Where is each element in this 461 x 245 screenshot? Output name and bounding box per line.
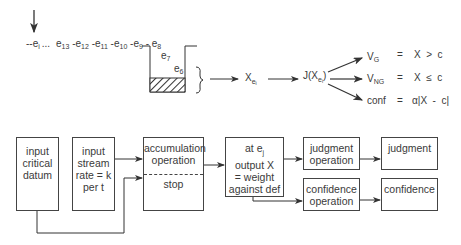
svg-text:=: = — [397, 49, 403, 60]
box-text: against def — [226, 183, 283, 195]
box-accumulation-operation: accumulation operation stop — [143, 137, 204, 211]
box-text: stop — [144, 178, 203, 190]
box-text: rate = k — [73, 169, 114, 181]
box-text: critical — [17, 157, 58, 169]
box-text: datum — [17, 169, 58, 181]
svg-text:=: = — [397, 72, 403, 83]
svg-text:VG: VG — [367, 51, 379, 63]
box-judgment: judgment — [381, 137, 438, 170]
outcome-vg: VG = X > c — [367, 49, 443, 63]
arrow-to-conf — [328, 84, 362, 100]
box-text: operation — [304, 154, 359, 166]
box-text: accumulation — [144, 142, 203, 154]
svg-text:α|X - c|: α|X - c| — [412, 95, 449, 106]
box-confidence-operation: confidence operation — [303, 178, 360, 211]
box-text: output X — [226, 159, 283, 171]
box-confidence: confidence — [381, 178, 438, 211]
accumulator-container: e7 e6 — [142, 46, 197, 92]
box-text: at e — [245, 142, 263, 154]
svg-text:conf: conf — [367, 95, 386, 106]
box-text: = weight — [226, 171, 283, 183]
svg-text:e6: e6 — [174, 63, 184, 75]
svg-text:X ≤ c: X ≤ c — [414, 72, 442, 83]
svg-text:X > c: X > c — [414, 49, 443, 60]
box-judgment-operation: judgment operation — [303, 137, 360, 170]
x-label: Xei — [245, 72, 257, 86]
accumulated-fill — [150, 78, 185, 92]
box-text: operation — [144, 154, 203, 166]
box-text: confidence — [382, 183, 437, 195]
outcome-conf: conf = α|X - c| — [367, 95, 449, 106]
stop-section: stop — [144, 175, 203, 190]
box-text: stream — [73, 157, 114, 169]
box-input-stream: input stream rate = k per t — [72, 137, 115, 211]
svg-text:=: = — [397, 95, 403, 106]
box-input-critical-datum: input critical datum — [16, 137, 59, 211]
j-label: J(Xei) — [303, 70, 326, 84]
box-text: confidence — [304, 183, 359, 195]
svg-text:VNG: VNG — [367, 73, 384, 85]
box-text: input — [17, 145, 58, 157]
box-text: j — [262, 149, 264, 156]
box-text: operation — [304, 195, 359, 207]
svg-text:e7: e7 — [161, 50, 171, 62]
brace-icon — [196, 67, 203, 93]
arrow-to-vg — [328, 58, 362, 72]
outcome-vng: VNG = X ≤ c — [367, 72, 442, 85]
box-text: judgment — [304, 142, 359, 154]
box-text: input — [73, 145, 114, 157]
svg-text:--ei...: --ei... — [26, 38, 50, 50]
box-output: at ej output X = weight against def — [225, 137, 284, 197]
svg-text:e13 -e12 -e11: e13 -e12 -e11 -e10 -e9 - e8 — [56, 38, 161, 51]
box-text: per t — [73, 181, 114, 193]
element-stream: --ei... e13 -e12 -e11 -e10 -e9 - e8 — [26, 38, 161, 51]
box-text: judgment — [382, 142, 437, 154]
